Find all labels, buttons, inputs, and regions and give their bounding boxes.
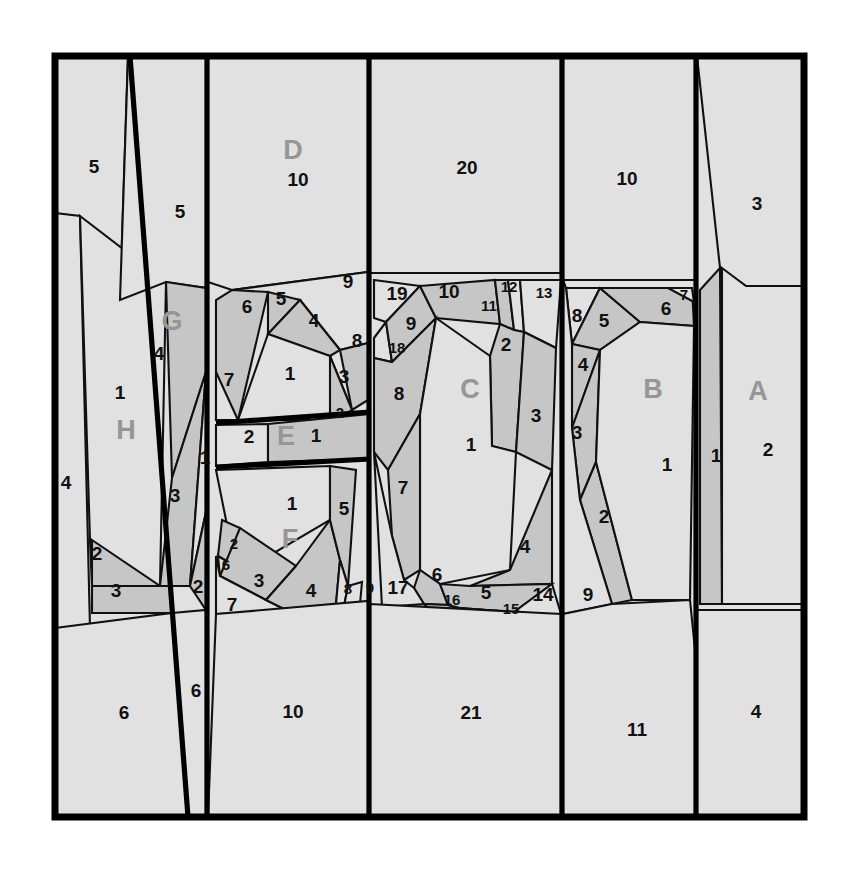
piece-number: 2 (244, 426, 255, 447)
piece-number: 10 (287, 169, 308, 190)
piece-number: 1 (287, 493, 298, 514)
piece-number: 1 (311, 425, 322, 446)
group-letter-F: F (282, 524, 299, 554)
piece-number: 15 (503, 600, 520, 617)
piece-number: 2 (230, 535, 238, 552)
piece-3-C (516, 332, 556, 470)
piece-number: 12 (501, 278, 518, 295)
piece-number: 13 (536, 284, 553, 301)
piece-number: 9 (406, 313, 417, 334)
piece-number: 5 (89, 156, 100, 177)
piece-number: 1 (662, 454, 673, 475)
piece-number: 9 (583, 584, 594, 605)
piece-number: 21 (460, 702, 482, 723)
piece-number: 5 (481, 582, 492, 603)
piece-number: 1 (285, 363, 296, 384)
piece-number: 4 (520, 536, 531, 557)
piece-number: 7 (227, 594, 238, 615)
piece-number: 11 (627, 719, 648, 740)
piece-number: 2 (336, 404, 344, 421)
group-letter-H: H (116, 415, 136, 445)
piece-number: 4 (61, 472, 72, 493)
piece-number: 10 (616, 168, 637, 189)
piece-number: 3 (254, 570, 265, 591)
piece-number: 2 (599, 506, 610, 527)
group-letter-C: C (460, 374, 480, 404)
piece-number: 3 (111, 580, 122, 601)
piece-number: 2 (501, 334, 512, 355)
piece-number: 2 (763, 439, 774, 460)
piece-number: 9 (366, 579, 374, 596)
group-letter-A: A (748, 376, 768, 406)
piece-number: 17 (387, 577, 408, 598)
piece-number: 5 (339, 498, 350, 519)
piece-number: 4 (154, 343, 165, 364)
piece-number: 6 (119, 702, 130, 723)
piece-number: 3 (170, 485, 181, 506)
piece-number: 1 (115, 382, 126, 403)
piece-number: 6 (661, 298, 672, 319)
piece-2-A (722, 268, 804, 604)
piece-number: 8 (352, 330, 363, 351)
piece-number: 3 (572, 422, 583, 443)
piece-number: 14 (532, 584, 554, 605)
piece-2-E (216, 424, 268, 466)
piece-number: 3 (339, 366, 350, 387)
group-letter-G: G (161, 306, 182, 336)
piece-number: 4 (578, 354, 589, 375)
piece-number: 1 (200, 447, 211, 468)
piece-3-H-bar (92, 586, 172, 613)
piece-1-A (700, 268, 722, 604)
piece-number: 5 (599, 310, 610, 331)
piece-number: 1 (711, 445, 722, 466)
piece-number: 4 (306, 580, 317, 601)
piece-number: 20 (456, 157, 477, 178)
piece-number: 9 (343, 271, 354, 292)
piece-number: 5 (276, 288, 287, 309)
group-letter-D: D (283, 135, 303, 165)
piece-number: 4 (751, 701, 762, 722)
dissection-canvas: A B C D E F G H 551020103965487132211910… (0, 0, 847, 871)
group-letter-E: E (277, 421, 295, 451)
piece-number: 2 (193, 576, 204, 597)
piece-number: 6 (191, 680, 202, 701)
piece-number: 8 (572, 305, 583, 326)
piece-number: 8 (344, 580, 352, 597)
dissection-figure: A B C D E F G H 551020103965487132211910… (0, 0, 847, 871)
piece-number: 8 (394, 383, 405, 404)
piece-number: 7 (224, 369, 235, 390)
piece-number: 1 (466, 434, 477, 455)
piece-number: 3 (752, 193, 763, 214)
piece-number: 3 (531, 405, 542, 426)
piece-11-bottom (563, 600, 695, 817)
piece-number: 16 (444, 591, 461, 608)
piece-number: 10 (438, 281, 459, 302)
piece-number: 6 (432, 564, 443, 585)
group-letter-B: B (643, 374, 663, 404)
piece-number: 11 (481, 297, 497, 314)
piece-number: 7 (680, 286, 688, 303)
piece-number: 7 (398, 477, 409, 498)
piece-number: 6 (242, 296, 253, 317)
piece-number: 19 (386, 283, 407, 304)
piece-number: 18 (389, 339, 406, 356)
piece-number: 6 (222, 556, 230, 573)
piece-number: 2 (92, 543, 103, 564)
piece-number: 4 (309, 310, 320, 331)
piece-number: 10 (282, 701, 303, 722)
piece-number: 5 (175, 201, 186, 222)
